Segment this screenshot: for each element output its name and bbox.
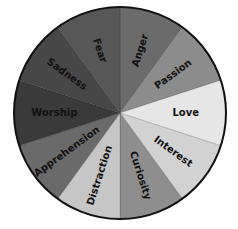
slice-label-worship: Worship <box>31 107 77 118</box>
slice-label-love: Love <box>172 107 199 118</box>
emotion-wheel: AngerPassionLoveInterestCuriosityDistrac… <box>0 0 238 229</box>
